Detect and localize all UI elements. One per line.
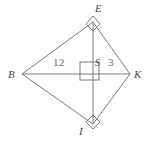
geometry-canvas bbox=[0, 0, 147, 142]
vertex-label-K: K bbox=[134, 69, 141, 80]
measure-label-BS: 12 bbox=[53, 57, 65, 68]
measure-label-SK: 3 bbox=[108, 57, 114, 68]
geometry-figure: E B K I S 12 3 bbox=[0, 0, 147, 142]
vertex-label-S: S bbox=[95, 58, 100, 68]
side-KI bbox=[93, 74, 130, 124]
side-IB bbox=[22, 74, 93, 124]
vertex-label-B: B bbox=[8, 69, 15, 80]
vertex-label-E: E bbox=[95, 3, 102, 14]
vertex-label-I: I bbox=[79, 126, 83, 137]
